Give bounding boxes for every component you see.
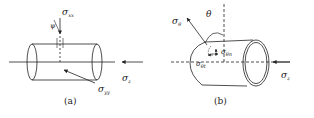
- stress-element-b: [208, 46, 218, 56]
- panel-b: σθ θ σθn σθt σz (b): [171, 4, 290, 106]
- label-sigma-xx: σxx: [62, 7, 74, 18]
- sigma-theta-arrow: [187, 18, 207, 45]
- sigma-yy-arrow: [64, 70, 95, 83]
- label-sigma-theta: σθ: [172, 16, 181, 27]
- label-sigma-z-b: σz: [281, 70, 290, 81]
- label-sigma-thetan: σθn: [221, 48, 232, 57]
- caption-a: (a): [64, 96, 76, 106]
- caption-b: (b): [214, 96, 227, 106]
- label-sigma-z-a: σz: [122, 73, 131, 84]
- label-sigma-yy: σyy: [98, 84, 110, 96]
- label-theta: θ: [206, 9, 212, 19]
- panel-a: σxx ψ σz σyy (a): [9, 7, 143, 106]
- label-psi: ψ: [50, 22, 56, 30]
- label-sigma-thetat: σθt: [196, 60, 207, 69]
- stress-diagram: σxx ψ σz σyy (a): [0, 0, 314, 118]
